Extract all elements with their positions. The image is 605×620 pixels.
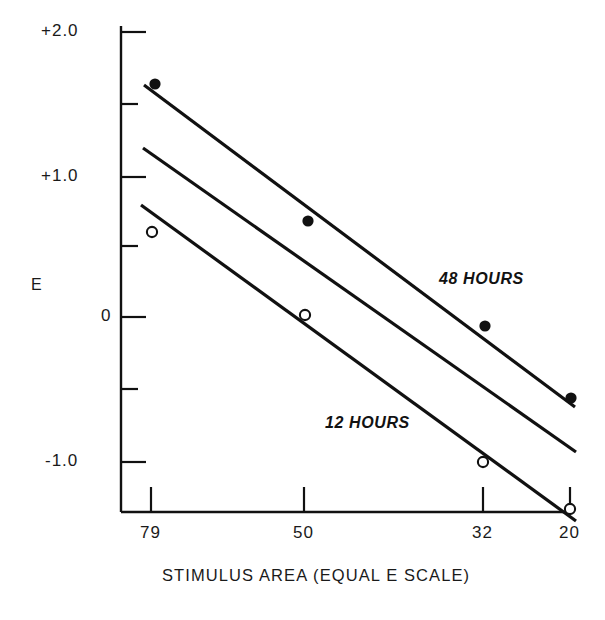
axis-lines <box>121 26 571 512</box>
fit-line-48-hours <box>144 85 575 407</box>
data-point-filled <box>479 320 490 331</box>
y-tick-label-1: +1.0 <box>41 166 79 186</box>
data-point-open <box>478 457 488 467</box>
fit-line-middle <box>143 148 576 452</box>
x-tick-label-32: 32 <box>472 523 493 543</box>
x-tick-label-20: 20 <box>559 523 580 543</box>
x-axis-ticks <box>151 487 570 512</box>
y-tick-label-neg1: -1.0 <box>45 451 78 471</box>
x-tick-label-50: 50 <box>293 523 314 543</box>
data-point-filled <box>149 78 160 89</box>
fit-lines <box>141 85 576 521</box>
y-axis-title: E <box>31 276 42 294</box>
y-tick-label-0: 0 <box>101 306 111 326</box>
data-point-open <box>147 227 157 237</box>
fit-line-12-hours <box>141 205 576 521</box>
data-point-open <box>300 310 310 320</box>
y-axis-minor-ticks <box>121 104 138 389</box>
data-point-filled <box>565 392 576 403</box>
data-points-48-hours <box>149 78 576 403</box>
data-point-open <box>565 504 575 514</box>
data-point-filled <box>302 215 313 226</box>
series-annotation-48-hours: 48 HOURS <box>439 270 524 288</box>
chart-figure: +2.0 +1.0 0 -1.0 79 50 32 20 E STIMULUS … <box>0 0 605 620</box>
x-axis-title: STIMULUS AREA (EQUAL E SCALE) <box>162 566 470 585</box>
y-tick-label-2: +2.0 <box>41 21 79 41</box>
series-annotation-12-hours: 12 HOURS <box>325 414 410 432</box>
x-tick-label-79: 79 <box>140 523 161 543</box>
